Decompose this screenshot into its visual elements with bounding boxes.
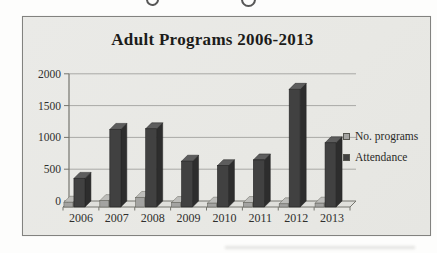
bar-attendance: [146, 129, 157, 207]
bar-attendance-side: [193, 155, 199, 207]
scanned-page: Adult Programs 2006-2013 050010001500200…: [0, 0, 437, 253]
x-tick-label: 2007: [105, 211, 129, 225]
chart-legend: No. programsAttendance: [343, 130, 418, 163]
legend-label: Attendance: [355, 151, 407, 163]
bar-no-programs: [172, 203, 181, 207]
x-tick-label: 2010: [212, 211, 236, 225]
bar-attendance-side: [336, 137, 342, 207]
bar-attendance: [253, 160, 264, 207]
bar-no-programs: [100, 201, 109, 207]
bar-no-programs: [315, 203, 324, 207]
bar-no-programs: [207, 203, 216, 207]
x-tick-label: 2006: [69, 211, 93, 225]
x-tick-label: 2008: [141, 211, 165, 225]
bar-attendance-side: [300, 83, 306, 207]
cropped-letter-fragment: [145, 0, 159, 7]
x-tick-label: 2011: [249, 211, 273, 225]
bar-no-programs: [136, 197, 145, 207]
bar-attendance: [110, 129, 121, 207]
legend-swatch: [343, 133, 350, 140]
legend-label: No. programs: [355, 130, 418, 142]
y-tick-label: 1500: [38, 100, 61, 112]
bar-no-programs: [243, 203, 252, 207]
bar-attendance: [217, 166, 228, 207]
y-tick-label: 500: [44, 163, 62, 175]
bar-attendance-side: [121, 123, 127, 207]
y-tick-label: 1000: [38, 131, 61, 143]
legend-item: No. programs: [343, 130, 418, 142]
legend-item: Attendance: [343, 151, 418, 163]
x-tick-label: 2013: [320, 211, 344, 225]
scan-smudge: [225, 246, 415, 249]
bar-attendance-side: [157, 123, 163, 207]
bar-no-programs: [279, 204, 288, 207]
bar-attendance: [289, 89, 300, 207]
bar-no-programs: [64, 202, 73, 207]
bar-attendance: [74, 178, 85, 207]
x-tick-label: 2009: [177, 211, 201, 225]
cropped-letter-fragment: [241, 0, 256, 7]
bar-attendance-side: [228, 160, 234, 207]
plot-area: 0500100015002000200620072008200920102011…: [23, 17, 428, 233]
y-tick-label: 0: [55, 195, 61, 207]
y-tick-label: 2000: [38, 68, 61, 80]
legend-swatch: [343, 154, 350, 161]
x-tick-label: 2012: [284, 211, 308, 225]
bar-attendance: [325, 143, 336, 207]
bar-attendance-side: [264, 154, 270, 207]
chart-frame: Adult Programs 2006-2013 050010001500200…: [22, 16, 431, 236]
bar-attendance: [182, 161, 193, 207]
